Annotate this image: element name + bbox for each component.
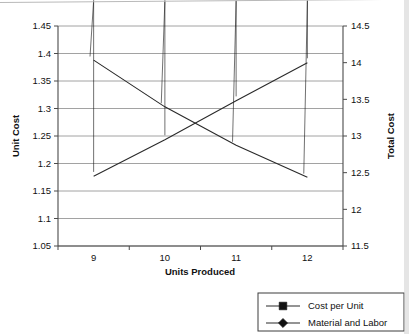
data-point-marker — [161, 1, 165, 104]
legend-label: Cost per Unit — [308, 300, 364, 311]
left-tick-label: 1.2 — [38, 158, 51, 169]
left-tick-label: 1.35 — [33, 75, 52, 86]
legend-label: Material and Labor — [308, 317, 387, 328]
right-axis-tick-labels: 11.51212.51313.51414.5 — [351, 20, 370, 251]
series-line — [94, 63, 308, 177]
left-tick-label: 1.3 — [38, 103, 51, 114]
x-tick-label: 11 — [231, 252, 241, 263]
right-tick-label: 14.5 — [351, 20, 370, 31]
left-axis-ticks — [54, 26, 58, 246]
left-tick-label: 1.05 — [33, 240, 52, 251]
legend-item[interactable]: Cost per Unit — [266, 300, 364, 311]
chart-container: 1.051.11.151.21.251.31.351.41.45 11.5121… — [0, 0, 409, 334]
chart-legend: Cost per UnitMaterial and Labor — [258, 293, 404, 331]
series-2 — [94, 0, 308, 176]
dual-axis-line-chart: 1.051.11.151.21.251.31.351.41.45 11.5121… — [0, 0, 409, 334]
x-tick-label: 12 — [302, 252, 313, 263]
left-tick-label: 1.15 — [33, 185, 52, 196]
legend-marker-square — [279, 302, 287, 310]
right-axis-title: Total Cost — [385, 112, 396, 159]
x-axis-title: Units Produced — [165, 266, 235, 277]
left-axis-tick-labels: 1.051.11.151.21.251.31.351.41.45 — [33, 20, 52, 251]
right-tick-label: 14 — [351, 57, 362, 68]
right-tick-label: 12.5 — [351, 167, 370, 178]
x-axis-ticks — [58, 246, 343, 250]
left-tick-label: 1.45 — [33, 20, 52, 31]
right-tick-label: 13 — [351, 130, 362, 141]
left-tick-label: 1.4 — [38, 48, 51, 59]
right-tick-label: 11.5 — [351, 240, 369, 251]
right-axis-ticks — [343, 26, 347, 246]
left-tick-label: 1.25 — [33, 130, 52, 141]
x-tick-label: 9 — [91, 252, 96, 263]
series-group — [90, 0, 307, 177]
x-tick-label: 10 — [160, 252, 171, 263]
data-point-marker — [90, 1, 94, 57]
right-tick-label: 13.5 — [351, 94, 370, 105]
gridlines-group — [58, 26, 343, 246]
series-1 — [90, 1, 307, 178]
data-point-marker — [304, 1, 308, 174]
x-axis-tick-labels: 9101112 — [91, 252, 313, 263]
left-tick-label: 1.1 — [38, 213, 51, 224]
right-tick-label: 12 — [351, 204, 362, 215]
left-axis-title: Unit Cost — [10, 114, 21, 157]
scan-edge-right — [404, 0, 409, 334]
data-point-marker — [233, 1, 237, 142]
